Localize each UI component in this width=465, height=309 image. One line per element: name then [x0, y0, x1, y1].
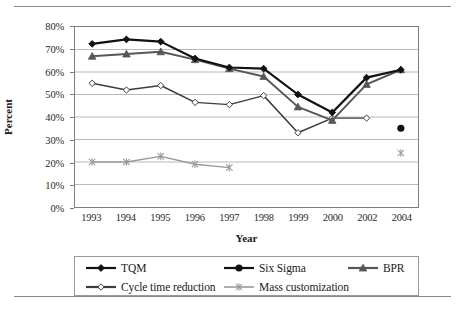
x-tick-label: 2002 [357, 212, 377, 223]
series-six-sigma [397, 125, 404, 132]
y-tick-label: 70% [45, 43, 64, 54]
legend-marker-open-diamond [85, 280, 117, 294]
x-tick-label: 1997 [219, 212, 239, 223]
chart-legend: TQMSix SigmaBPR Cycle time reductionMass… [74, 256, 419, 296]
legend-marker-filled-circle [223, 261, 255, 275]
legend-item-six-sigma[interactable]: Six Sigma [223, 258, 306, 278]
y-tick-label: 80% [45, 21, 64, 32]
data-point-marker [123, 36, 130, 43]
series-cycle-time-reduction [89, 80, 370, 136]
x-tick-label: 1998 [254, 212, 274, 223]
data-point-marker [158, 82, 164, 88]
y-axis-title: Percent [2, 99, 14, 135]
data-point-marker [398, 149, 404, 157]
x-axis-tick-labels: 1993199419951996199719981999200020022004 [74, 212, 419, 230]
data-point-marker [226, 101, 232, 107]
data-point-marker [192, 99, 198, 105]
data-point-marker [235, 264, 242, 271]
data-point-marker [89, 41, 96, 48]
x-tick-label: 1999 [288, 212, 308, 223]
x-tick-label: 2004 [392, 212, 412, 223]
plot-frame [74, 26, 419, 208]
data-point-marker [363, 115, 369, 121]
data-point-marker [123, 87, 129, 93]
figure-container: Percent 0%10%20%30%40%50%60%70%80% 19931… [0, 0, 465, 309]
data-series-layer [75, 27, 418, 207]
x-tick-label: 1996 [185, 212, 205, 223]
legend-marker-filled-triangle [347, 261, 379, 275]
data-point-marker [89, 80, 95, 86]
chart-area: Percent 0%10%20%30%40%50%60%70%80% 19931… [0, 10, 465, 294]
data-point-marker [98, 284, 104, 290]
y-tick-label: 60% [45, 66, 64, 77]
legend-row-2: Cycle time reductionMass customization [75, 277, 418, 297]
x-tick-label: 1994 [116, 212, 136, 223]
series-tqm [89, 36, 404, 116]
legend-item-label: Cycle time reduction [121, 281, 215, 293]
x-axis-title: Year [74, 232, 419, 244]
legend-item-tqm[interactable]: TQM [85, 258, 146, 278]
y-tick-label: 30% [45, 134, 64, 145]
series-line [92, 39, 401, 112]
data-point-marker [98, 265, 105, 272]
y-tick-label: 50% [45, 89, 64, 100]
legend-item-cycle-time-reduction[interactable]: Cycle time reduction [85, 277, 215, 297]
x-tick-label: 2000 [323, 212, 343, 223]
legend-item-label: BPR [383, 262, 404, 274]
y-tick-label: 10% [45, 180, 64, 191]
legend-item-mass-customization[interactable]: Mass customization [223, 277, 349, 297]
x-tick-label: 1993 [81, 212, 101, 223]
data-point-marker [397, 125, 404, 132]
legend-item-label: Six Sigma [259, 262, 306, 274]
y-tick-mark [70, 208, 74, 209]
legend-row-1: TQMSix SigmaBPR [75, 258, 418, 278]
top-divider-rule [14, 6, 451, 7]
legend-item-label: Mass customization [259, 281, 349, 293]
bottom-divider-rule [14, 296, 451, 297]
x-tick-label: 1995 [150, 212, 170, 223]
series-line [92, 52, 401, 121]
legend-item-bpr[interactable]: BPR [347, 258, 404, 278]
legend-marker-filled-diamond [85, 261, 117, 275]
y-tick-label: 0% [50, 203, 64, 214]
y-tick-label: 20% [45, 157, 64, 168]
series-mass-customization [89, 149, 404, 171]
y-tick-label: 40% [45, 112, 64, 123]
y-axis-tick-labels: 0%10%20%30%40%50%60%70%80% [30, 26, 70, 208]
legend-item-label: TQM [121, 262, 146, 274]
legend-marker-star-x [223, 280, 255, 294]
